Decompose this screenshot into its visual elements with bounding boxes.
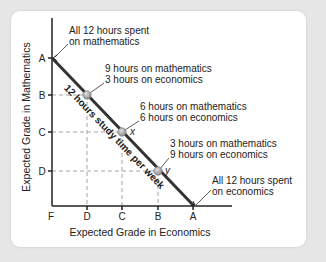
ppf-diagram: A B C D F D C B A Expected Grade in Econ… — [0, 0, 326, 262]
y-tick: B — [39, 90, 46, 101]
annotation-line: 6 hours on economics — [140, 112, 238, 123]
annotation-line: All 12 hours spent — [212, 175, 292, 186]
annotation-9-3: 9 hours on mathematics 3 hours on econom… — [105, 63, 212, 85]
y-tick: A — [39, 53, 46, 64]
y-axis-title: Expected Grade in Mathematics — [20, 42, 32, 191]
y-tick-labels: A B C D — [38, 53, 45, 177]
x-tick: C — [118, 211, 125, 222]
x-tick: A — [190, 211, 197, 222]
x-tick: F — [48, 211, 54, 222]
annotation-line: on economics — [212, 186, 274, 197]
annotation-line: 3 hours on mathematics — [170, 138, 277, 149]
y-tick: C — [38, 127, 45, 138]
annotation-line: 3 hours on economics — [105, 74, 203, 85]
annotation-line: on mathematics — [69, 36, 140, 47]
x-axis-title: Expected Grade in Economics — [69, 226, 210, 238]
annotation-all-econ: All 12 hours spent on economics — [212, 175, 292, 197]
annotation-line: All 12 hours spent — [69, 25, 149, 36]
annotation-all-math: All 12 hours spent on mathematics — [69, 25, 149, 47]
y-tick: D — [38, 166, 45, 177]
annotation-line: 9 hours on mathematics — [105, 63, 212, 74]
ppf-line-label: 12 hours study time per week — [62, 82, 167, 191]
x-tick: B — [155, 211, 162, 222]
x-tick: D — [83, 211, 90, 222]
annotation-3-9: 3 hours on mathematics 9 hours on econom… — [170, 138, 277, 160]
point-x — [118, 128, 126, 136]
point-label-y: y — [164, 165, 171, 176]
point-y — [154, 167, 162, 175]
x-tick-labels: F D C B A — [48, 211, 197, 222]
annotation-line: 6 hours on mathematics — [140, 101, 247, 112]
annotation-6-6: 6 hours on mathematics 6 hours on econom… — [140, 101, 247, 123]
point-label-x: x — [129, 126, 136, 137]
annotation-line: 9 hours on economics — [170, 149, 268, 160]
point-b — [83, 91, 91, 99]
